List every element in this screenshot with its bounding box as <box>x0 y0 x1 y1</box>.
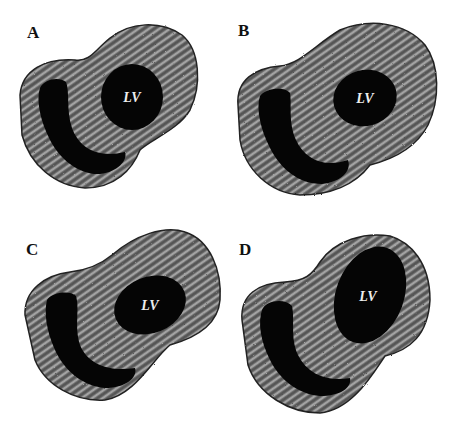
panel-label-d: D <box>239 240 251 259</box>
lv-label-c: LV <box>140 298 160 313</box>
panel-d: D LV <box>239 235 430 413</box>
lv-label-d: LV <box>358 289 378 304</box>
panel-label-a: A <box>27 23 40 42</box>
lv-label-a: LV <box>122 90 142 105</box>
panel-label-b: B <box>238 21 249 40</box>
panel-b: B LV <box>238 21 437 195</box>
panel-label-c: C <box>26 240 38 259</box>
heart-cross-section-figure: A LV B LV C LV D LV <box>0 0 455 433</box>
lv-label-b: LV <box>355 91 375 106</box>
panel-c: C LV <box>25 230 220 400</box>
panel-a: A LV <box>20 23 198 188</box>
